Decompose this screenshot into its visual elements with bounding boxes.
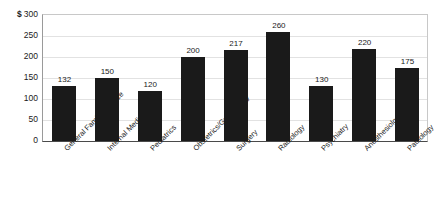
y-axis-tick-label: 50	[29, 114, 38, 124]
y-axis-tick-label: 150	[24, 72, 38, 82]
y-axis-tick-label: 200	[24, 51, 38, 61]
y-axis-tick-label: 250	[24, 30, 38, 40]
bar[interactable]	[181, 57, 205, 141]
x-axis-label-slot: Pathology	[385, 143, 428, 212]
y-axis-tick: 50	[0, 115, 38, 124]
bar-chart: $300 250 200 150 100 50 0 13215012020021…	[0, 0, 436, 212]
bar-value-label: 220	[343, 39, 386, 47]
bar-value-label: 200	[172, 47, 215, 55]
bar-value-label: 260	[257, 22, 300, 30]
y-axis-tick: 0	[0, 136, 38, 145]
bar-slot: 260	[257, 15, 300, 141]
bar[interactable]	[352, 49, 376, 141]
x-axis-label-slot: Psychiatry	[299, 143, 342, 212]
y-axis-tick-label: 0	[33, 135, 38, 145]
bar-value-label: 175	[386, 58, 429, 66]
bar[interactable]	[52, 86, 76, 141]
y-axis-tick-label: 100	[24, 93, 38, 103]
y-axis-tick: 150	[0, 73, 38, 82]
bar-series: 132150120200217260130220175	[43, 15, 427, 141]
plot-area: 132150120200217260130220175	[42, 14, 428, 142]
x-axis-label-slot: Radiology	[256, 143, 299, 212]
x-axis-label-slot: General Family Practice	[42, 143, 85, 212]
bar-slot: 200	[172, 15, 215, 141]
x-axis-label-slot: Surgery	[214, 143, 257, 212]
y-axis-tick: 200	[0, 52, 38, 61]
currency-symbol: $	[17, 9, 22, 19]
y-axis: $300 250 200 150 100 50 0	[0, 0, 42, 212]
y-axis-tick: 100	[0, 94, 38, 103]
bar[interactable]	[309, 86, 333, 141]
x-axis-label-slot: Anesthesiology	[342, 143, 385, 212]
x-axis-label-slot: Pediatrics	[128, 143, 171, 212]
bar-value-label: 132	[43, 76, 86, 84]
y-axis-tick-label: 300	[24, 9, 38, 19]
x-axis: General Family PracticeInternal Medicine…	[42, 143, 428, 212]
y-axis-tick: $300	[0, 10, 38, 19]
x-axis-label-slot: Obstetrics/Gynecology	[171, 143, 214, 212]
bar-value-label: 120	[129, 81, 172, 89]
bar[interactable]	[395, 68, 419, 142]
bar-value-label: 130	[300, 76, 343, 84]
bar[interactable]	[266, 32, 290, 141]
bar-slot: 220	[343, 15, 386, 141]
bar-value-label: 150	[86, 68, 129, 76]
bar-value-label: 217	[215, 40, 258, 48]
bar-slot: 130	[300, 15, 343, 141]
x-axis-label-slot: Internal Medicine	[85, 143, 128, 212]
y-axis-tick: 250	[0, 31, 38, 40]
bar-slot: 132	[43, 15, 86, 141]
